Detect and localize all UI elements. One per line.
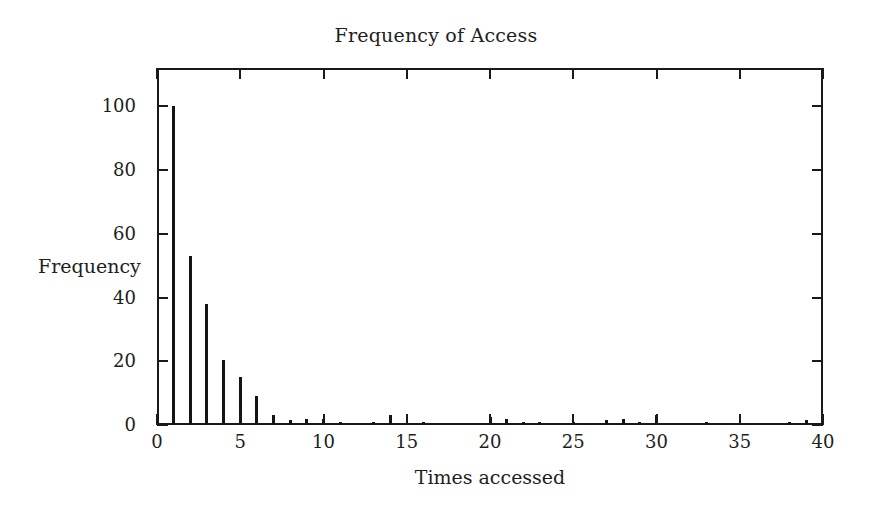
y-axis-tick-label: 80 bbox=[16, 161, 136, 179]
y-axis-tick bbox=[157, 233, 168, 235]
bar bbox=[805, 420, 808, 425]
bar bbox=[422, 422, 425, 425]
bar bbox=[255, 396, 258, 425]
bar bbox=[372, 422, 375, 425]
x-axis-tick-label: 35 bbox=[710, 433, 770, 451]
x-axis-tick-mirror bbox=[156, 68, 158, 79]
x-axis-tick-mirror bbox=[406, 68, 408, 79]
x-axis-tick-label: 20 bbox=[460, 433, 520, 451]
bar bbox=[272, 415, 275, 425]
x-axis-tick-mirror bbox=[239, 68, 241, 79]
x-axis-tick-label: 40 bbox=[793, 433, 853, 451]
x-axis-tick bbox=[572, 414, 574, 425]
y-axis-tick-mirror bbox=[812, 360, 823, 362]
plot-area bbox=[157, 68, 823, 425]
x-axis-tick-mirror bbox=[822, 68, 824, 79]
x-axis-tick bbox=[156, 414, 158, 425]
y-axis-tick bbox=[157, 360, 168, 362]
x-axis-tick-mirror bbox=[323, 68, 325, 79]
y-axis-tick-label: 0 bbox=[16, 416, 136, 434]
bar bbox=[705, 422, 708, 425]
y-axis-tick-mirror bbox=[812, 233, 823, 235]
x-axis-tick bbox=[739, 414, 741, 425]
y-axis-tick-label: 60 bbox=[16, 225, 136, 243]
y-axis-tick-label: 100 bbox=[16, 97, 136, 115]
bar bbox=[205, 304, 208, 425]
x-axis-tick-label: 10 bbox=[294, 433, 354, 451]
bar bbox=[538, 422, 541, 425]
bar bbox=[305, 419, 308, 425]
bar bbox=[622, 419, 625, 425]
x-axis-tick bbox=[822, 414, 824, 425]
y-axis-tick-label: 40 bbox=[16, 289, 136, 307]
bar bbox=[522, 422, 525, 425]
y-axis-tick-mirror bbox=[812, 169, 823, 171]
chart-figure: Frequency of Access Frequency Times acce… bbox=[0, 0, 872, 513]
y-axis-tick bbox=[157, 169, 168, 171]
chart-title: Frequency of Access bbox=[0, 24, 872, 46]
y-axis-tick bbox=[157, 105, 168, 107]
bar bbox=[189, 256, 192, 425]
x-axis-tick-label: 0 bbox=[127, 433, 187, 451]
bar bbox=[505, 419, 508, 425]
x-axis-tick bbox=[656, 414, 658, 425]
x-axis-tick-label: 15 bbox=[377, 433, 437, 451]
y-axis-tick-mirror bbox=[812, 297, 823, 299]
x-axis-tick-label: 5 bbox=[210, 433, 270, 451]
x-axis-tick-mirror bbox=[572, 68, 574, 79]
x-axis-tick-mirror bbox=[656, 68, 658, 79]
bar bbox=[605, 420, 608, 425]
bar bbox=[339, 422, 342, 425]
y-axis-tick-label: 20 bbox=[16, 352, 136, 370]
x-axis-tick bbox=[406, 414, 408, 425]
bar bbox=[389, 415, 392, 425]
bar bbox=[788, 422, 791, 425]
bar bbox=[172, 106, 175, 425]
x-axis-tick-label: 30 bbox=[627, 433, 687, 451]
x-axis-tick-mirror bbox=[489, 68, 491, 79]
x-axis-tick bbox=[323, 414, 325, 425]
y-axis-tick bbox=[157, 297, 168, 299]
y-axis-title: Frequency bbox=[38, 255, 141, 277]
x-axis-tick-label: 25 bbox=[543, 433, 603, 451]
x-axis-tick bbox=[489, 414, 491, 425]
y-axis-tick bbox=[157, 424, 168, 426]
y-axis-tick-mirror bbox=[812, 105, 823, 107]
x-axis-tick-mirror bbox=[739, 68, 741, 79]
bar bbox=[289, 420, 292, 425]
bar bbox=[222, 360, 225, 425]
x-axis-tick bbox=[239, 414, 241, 425]
bar bbox=[638, 422, 641, 425]
x-axis-title: Times accessed bbox=[157, 466, 823, 488]
